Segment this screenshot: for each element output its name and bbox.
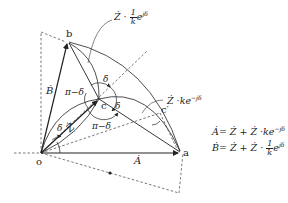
point-label-c-prime: c′ xyxy=(161,105,169,115)
equation-A: Ȧ= Ż + Ż ·ke−jδ xyxy=(212,126,285,137)
fraction-denominator: k xyxy=(130,18,137,26)
point-label-c: c xyxy=(101,101,107,111)
annotation-top: Ż · 1 k ejδ xyxy=(114,9,148,26)
vectors xyxy=(41,44,178,153)
angle-label-pi-minus-delta-bottom: π−δ xyxy=(92,122,111,131)
arcs xyxy=(41,42,180,153)
annotation-top-exp: jδ xyxy=(142,10,147,17)
vector-B xyxy=(41,44,67,153)
arc-b-to-a xyxy=(69,42,180,151)
annotation-top-fraction: 1 k xyxy=(130,9,137,26)
annotation-top-prefix: Ż · xyxy=(114,11,127,22)
equation-B-exp: jδ xyxy=(279,141,284,148)
angle-label-delta-top: δ xyxy=(103,75,108,84)
equation-A-rhs: = Ż + Ż ·ke xyxy=(219,126,275,137)
annotation-right-text: Ż ·ke xyxy=(167,95,191,106)
phasor-diagram xyxy=(0,0,288,203)
equation-B-lhs: Ḃ xyxy=(212,142,219,153)
point-label-o: o xyxy=(36,157,42,167)
construction-lines xyxy=(14,32,183,193)
annotation-right-exp: −jδ xyxy=(191,94,202,101)
angle-label-delta-right: δ xyxy=(115,102,120,111)
equation-B: Ḃ= Ż + Ż · 1 k ejδ xyxy=(212,140,284,157)
equation-B-rhs: = Ż + Ż · xyxy=(219,142,263,153)
annotation-right: Ż ·ke−jδ xyxy=(167,95,202,106)
dashed-to-b xyxy=(41,32,66,42)
vector-label-B: Ḃ xyxy=(46,86,53,96)
equation-A-lhs: Ȧ xyxy=(212,126,219,137)
midpoint-dot xyxy=(108,171,111,174)
point-label-a: a xyxy=(183,148,189,158)
vector-label-A: Ȧ xyxy=(134,156,141,166)
angle-label-delta-o: δ xyxy=(57,124,62,133)
point-label-b: b xyxy=(66,29,72,39)
dashed-a-lower xyxy=(179,153,183,193)
equation-A-exp: −jδ xyxy=(274,125,285,132)
angle-label-pi-minus-delta-left: π−δ xyxy=(65,88,84,97)
